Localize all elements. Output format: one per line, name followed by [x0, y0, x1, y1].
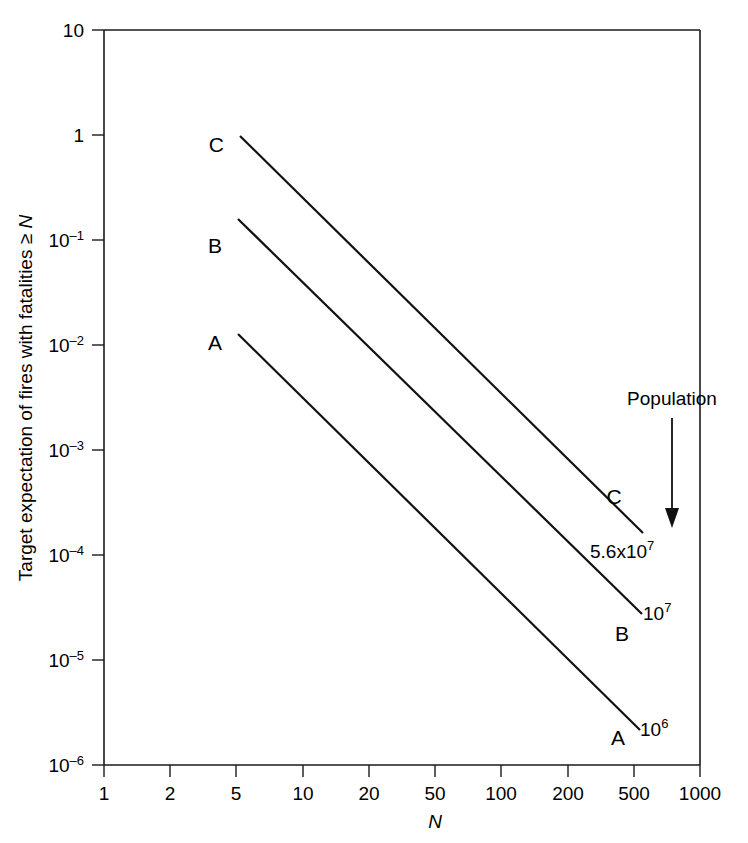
x-label-1: 1	[99, 783, 110, 804]
figure-container: 10 1 10–1 10–2 10–3 10–4 10–5 10–6 1 2	[0, 0, 748, 843]
endpoint-value-a: 106	[640, 716, 668, 740]
x-label-20: 20	[358, 783, 379, 804]
data-series-group	[238, 136, 643, 730]
y-axis-ticks	[92, 30, 104, 765]
x-label-100: 100	[485, 783, 517, 804]
x-label-2: 2	[165, 783, 176, 804]
curve-label-c-start: C	[209, 133, 224, 156]
y-label-1e-5: 10–5	[48, 648, 84, 671]
curve-label-a-end: A	[611, 726, 625, 749]
y-label-1e-3: 10–3	[48, 438, 84, 461]
endpoint-values: 5.6x107 107 106	[590, 538, 671, 740]
y-axis-tick-labels: 10 1 10–1 10–2 10–3 10–4 10–5 10–6	[48, 20, 84, 776]
log-log-chart: 10 1 10–1 10–2 10–3 10–4 10–5 10–6 1 2	[0, 0, 748, 843]
y-label-1: 1	[73, 125, 84, 146]
curve-start-labels: C B A	[208, 133, 224, 354]
x-axis-tick-labels: 1 2 5 10 20 50 100 200 500 1000	[99, 783, 721, 804]
endpoint-value-b: 107	[643, 600, 671, 624]
x-label-50: 50	[424, 783, 445, 804]
curve-label-c-end: C	[606, 485, 621, 508]
data-line-c	[240, 136, 643, 533]
x-label-10: 10	[292, 783, 313, 804]
plot-frame	[104, 30, 700, 765]
y-axis-title: Target expectation of fires with fatalit…	[15, 215, 36, 582]
data-line-b	[238, 219, 642, 614]
population-arrow-head	[665, 508, 679, 528]
data-line-a	[238, 334, 640, 730]
y-label-1e-1: 10–1	[48, 228, 84, 251]
y-label-1e-4: 10–4	[48, 543, 84, 566]
x-label-500: 500	[618, 783, 650, 804]
y-label-1e-6: 10–6	[48, 753, 84, 776]
x-axis-title: N	[428, 811, 442, 832]
population-annotation-label: Population	[627, 388, 717, 409]
x-label-200: 200	[552, 783, 584, 804]
curve-label-a-start: A	[208, 331, 222, 354]
y-label-1e-2: 10–2	[48, 333, 84, 356]
x-label-5: 5	[231, 783, 242, 804]
curve-label-b-start: B	[208, 234, 222, 257]
y-label-10: 10	[63, 20, 84, 41]
x-axis-ticks	[104, 765, 700, 777]
population-arrow	[665, 418, 679, 528]
x-label-1000: 1000	[679, 783, 721, 804]
curve-label-b-end: B	[615, 622, 629, 645]
endpoint-value-c: 5.6x107	[590, 538, 654, 562]
